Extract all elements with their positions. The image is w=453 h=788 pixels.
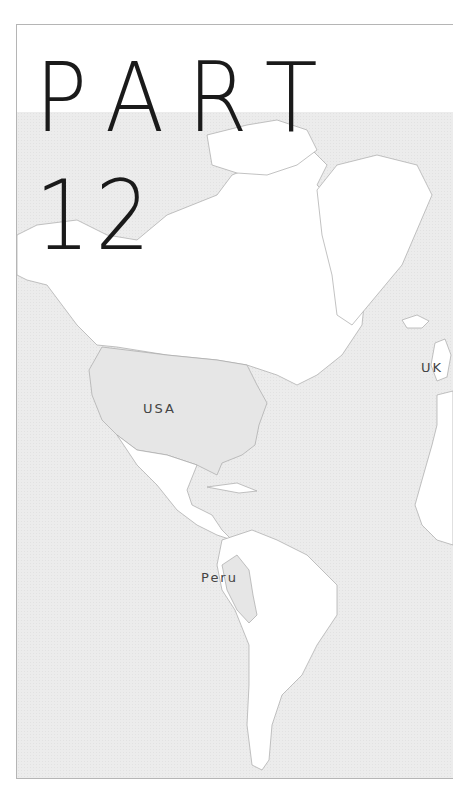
page-frame: PART 12 USA Peru UK	[16, 24, 453, 779]
land-europe-africa	[415, 391, 453, 545]
map-label-usa: USA	[143, 401, 176, 416]
title-number: 12	[35, 168, 156, 264]
map-label-uk: UK	[421, 360, 443, 375]
land-usa	[89, 347, 267, 475]
land-iceland	[402, 315, 429, 328]
map-label-peru: Peru	[201, 570, 238, 585]
land-cuba	[207, 483, 257, 493]
title-part: PART	[35, 50, 341, 146]
